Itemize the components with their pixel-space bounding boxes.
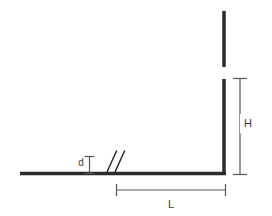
dimension-diagram: H L d xyxy=(0,0,272,216)
dimension-h-label: H xyxy=(244,117,252,129)
dimension-l-label: L xyxy=(168,198,174,210)
diagram-background xyxy=(0,0,272,216)
dimension-d-label: d xyxy=(78,157,84,168)
diagram-canvas: H L d xyxy=(0,0,272,216)
